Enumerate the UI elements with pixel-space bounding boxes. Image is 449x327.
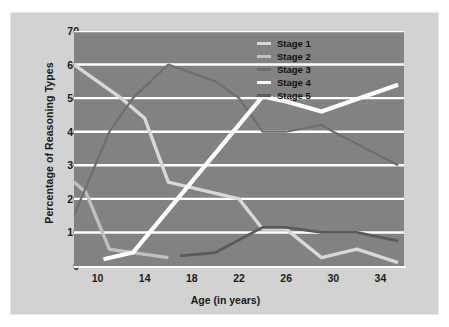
x-axis-line xyxy=(74,266,406,268)
legend-label: Stage 1 xyxy=(277,38,311,49)
x-tick-label: 14 xyxy=(139,272,151,284)
legend-item: Stage 2 xyxy=(257,51,311,62)
legend-label: Stage 2 xyxy=(277,51,311,62)
legend-swatch xyxy=(257,42,271,45)
x-tick-label: 22 xyxy=(233,272,245,284)
series-line-stage-2 xyxy=(74,182,168,258)
legend-label: Stage 3 xyxy=(277,64,311,75)
chart-canvas xyxy=(74,31,404,266)
legend-swatch xyxy=(257,81,271,84)
legend-swatch xyxy=(257,55,271,58)
legend-item: Stage 1 xyxy=(257,38,311,49)
series-line-stage-3 xyxy=(74,65,398,216)
x-tick-label: 34 xyxy=(375,272,387,284)
legend-item: Stage 4 xyxy=(257,77,311,88)
legend-label: Stage 5 xyxy=(277,90,311,101)
x-tick-label: 18 xyxy=(186,272,198,284)
chart-legend: Stage 1Stage 2Stage 3Stage 4Stage 5 xyxy=(257,38,311,101)
legend-label: Stage 4 xyxy=(277,77,311,88)
chart-card: Percentage of Reasoning Types Age (in ye… xyxy=(10,12,439,315)
plot-area xyxy=(74,31,404,266)
legend-item: Stage 5 xyxy=(257,90,311,101)
x-tick-label: 10 xyxy=(92,272,104,284)
legend-item: Stage 3 xyxy=(257,64,311,75)
legend-swatch xyxy=(257,68,271,71)
legend-swatch xyxy=(257,94,271,97)
x-tick-label: 30 xyxy=(327,272,339,284)
x-tick-label: 26 xyxy=(280,272,292,284)
